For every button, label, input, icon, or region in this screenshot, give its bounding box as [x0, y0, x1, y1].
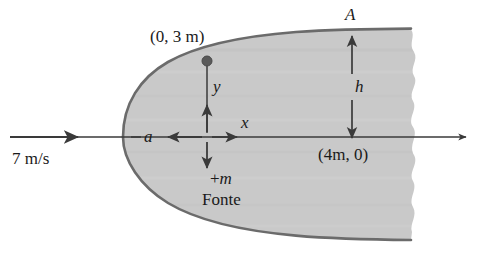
stagnation-offset-label: a — [144, 128, 153, 145]
figure-canvas — [0, 0, 477, 259]
source-strength-sign: + — [210, 169, 220, 188]
source-name-label: Fonte — [202, 191, 241, 208]
surface-point-marker — [202, 56, 212, 66]
section-label: A — [345, 6, 355, 23]
freestream-velocity-label: 7 m/s — [12, 150, 49, 167]
y-axis-label: y — [213, 78, 221, 95]
rankine-half-body-figure: 7 m/s (0, 3 m) a y x +m Fonte (4m, 0) A … — [0, 0, 477, 259]
half-width-label: h — [355, 78, 364, 95]
x-axis-label: x — [241, 114, 249, 131]
axis-point-label: (4m, 0) — [318, 146, 368, 163]
surface-point-label: (0, 3 m) — [150, 28, 204, 45]
source-strength-symbol: m — [220, 169, 232, 188]
source-strength-label: +m — [210, 170, 232, 187]
half-body-shape — [123, 29, 430, 240]
